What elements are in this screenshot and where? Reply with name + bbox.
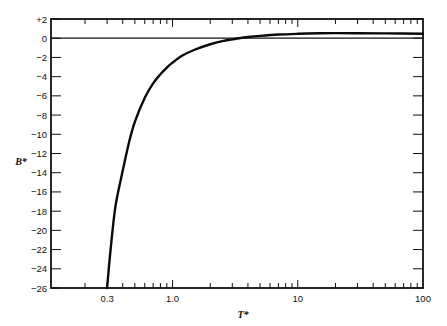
y-tick-label: 0 [42,33,47,44]
y-tick-label: −4 [36,71,47,82]
virial-coefficient-chart: 0.31.010100 +20−2−4−6−8−10−12−14−16−18−2… [0,0,447,326]
y-axis-ticks [51,19,423,288]
x-axis-ticks [85,19,417,288]
x-tick-label: 1.0 [166,293,179,304]
y-tick-label: −26 [31,283,47,294]
y-tick-label: −20 [31,225,47,236]
y-tick-label: −12 [31,148,47,159]
x-tick-label: 10 [292,293,303,304]
x-tick-label: 100 [415,293,431,304]
plot-border [51,19,423,288]
y-tick-label: −6 [36,90,47,101]
y-tick-label: −10 [31,129,47,140]
y-axis-tick-labels: +20−2−4−6−8−10−12−14−16−18−20−22−24−26 [31,14,47,294]
plot-frame [51,19,423,288]
y-tick-label: −14 [31,167,47,178]
x-axis-tick-labels: 0.31.010100 [100,293,430,304]
y-tick-label: −16 [31,186,47,197]
b-star-curve [107,33,423,288]
y-tick-label: +2 [36,14,47,25]
y-tick-label: −2 [36,52,47,63]
y-tick-label: −8 [36,110,47,121]
y-tick-label: −22 [31,244,47,255]
y-tick-label: −24 [31,263,47,274]
x-tick-label: 0.3 [100,293,113,304]
y-axis-title: B* [14,156,28,167]
x-axis-title: T* [237,309,249,320]
y-tick-label: −18 [31,206,47,217]
